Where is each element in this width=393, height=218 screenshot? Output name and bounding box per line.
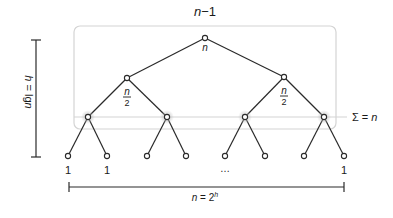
width-measure [69,182,344,192]
width-label: n = 2h [192,191,219,203]
root-label: n [202,42,208,53]
leaf-node [301,153,306,158]
root-node [202,35,207,40]
leaf-node [222,153,227,158]
internal-count-label: n−1 [194,4,216,19]
level3-node [164,114,169,119]
level2-node [281,74,286,79]
leaf-label: 1 [104,164,110,176]
svg-text:n: n [281,85,287,96]
leaf-node [183,153,188,158]
leaf-node [65,153,70,158]
level2-node [124,75,129,80]
leaf-node [104,153,109,158]
height-label: h = lgn [23,75,35,108]
leaf-ellipsis: … [220,163,230,174]
level3-node [85,114,90,119]
leaf-label: 1 [341,164,347,176]
svg-text:2: 2 [281,97,286,107]
leaf-node [262,153,267,158]
level3-node [242,114,247,119]
leaf-node [144,153,149,158]
level2-right-label: n 2 [280,85,288,107]
level-sum-label: Σ = n [352,111,377,123]
leaf-node [341,153,346,158]
tree-edges [68,38,344,156]
leaf-label: 1 [65,164,71,176]
svg-text:n: n [124,86,130,97]
svg-text:2: 2 [124,98,129,108]
level3-node [321,114,326,119]
recursion-tree-diagram: n−1 Σ = n [0,0,393,218]
level2-left-label: n 2 [123,86,131,108]
